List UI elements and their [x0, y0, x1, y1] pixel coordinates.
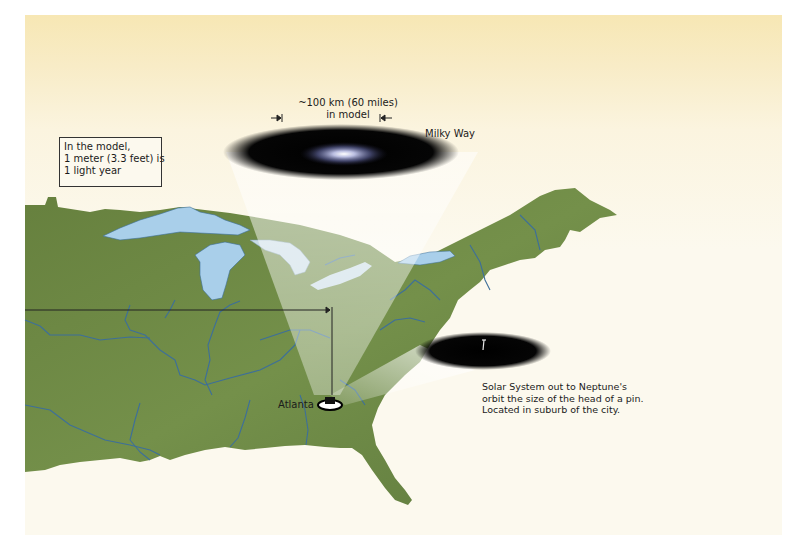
- atlanta-label: Atlanta: [278, 399, 314, 411]
- scale-label: ~100 km (60 miles) in model: [268, 97, 428, 121]
- solar-caption-line-3: Located in suburb of the city.: [482, 404, 643, 416]
- solar-caption-line-1: Solar System out to Neptune's: [482, 381, 643, 393]
- scale-note-box: In the model, 1 meter (3.3 feet) is 1 li…: [59, 137, 162, 187]
- milky-way-galaxy-icon: [300, 142, 388, 166]
- note-line-2: 1 meter (3.3 feet) is: [64, 153, 157, 165]
- solar-system-caption: Solar System out to Neptune's orbit the …: [482, 381, 643, 416]
- scale-label-line2: in model: [268, 109, 428, 121]
- us-map-illustration: [0, 0, 804, 551]
- scale-label-line1: ~100 km (60 miles): [268, 97, 428, 109]
- milky-way-label: Milky Way: [425, 128, 475, 140]
- solar-caption-line-2: orbit the size of the head of a pin.: [482, 393, 643, 405]
- solar-system-disk: [415, 332, 551, 370]
- note-line-1: In the model,: [64, 141, 157, 153]
- note-line-3: 1 light year: [64, 165, 157, 177]
